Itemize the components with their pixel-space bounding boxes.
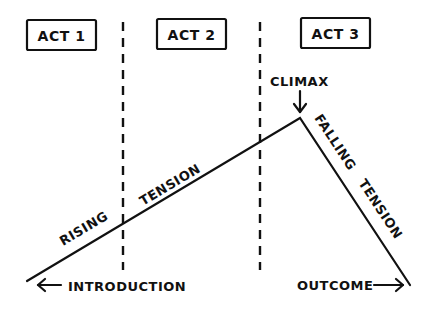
act-2-label: ACT 2 [168,27,216,43]
left-arrow-icon [38,279,61,291]
introduction-label: INTRODUCTION [68,279,186,294]
rising-label: RISING [57,208,111,248]
falling-label: FALLING [311,111,359,173]
act-3-label: ACT 3 [312,26,360,42]
outcome-label: OUTCOME [297,278,373,293]
right-arrow-icon [374,279,403,291]
climax-arrow-icon [294,91,306,112]
act-3-box: ACT 3 [301,18,370,48]
tension-curve [27,118,410,285]
act-1-box: ACT 1 [27,20,96,50]
act-1-label: ACT 1 [38,28,86,44]
act-2-box: ACT 2 [157,19,226,49]
three-act-structure-diagram: ACT 1 ACT 2 ACT 3 RISING TENSION CLIMAX … [0,0,434,309]
climax-label: CLIMAX [270,74,329,89]
rising-tension-label: TENSION [137,161,203,209]
falling-tension-label: TENSION [355,176,405,241]
